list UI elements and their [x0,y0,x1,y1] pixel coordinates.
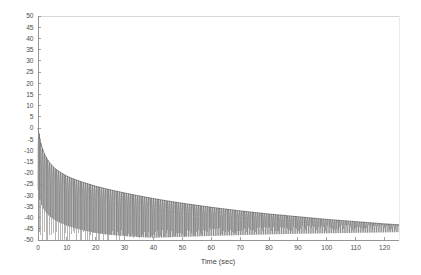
y-tick-label: 40 [26,35,34,42]
y-tick-label: -50 [24,236,34,243]
x-axis-title: Time (sec) [201,257,236,266]
x-tick-label: 50 [179,244,187,251]
y-tick-label: 50 [26,12,34,19]
data-trace [38,133,399,237]
axis-titles: Time (sec) [201,257,236,266]
y-tick-label: 5 [30,113,34,120]
y-tick-label: 15 [26,91,34,98]
x-tick-label: 60 [208,244,216,251]
x-tick-label: 110 [350,244,361,251]
y-tick-label: -45 [24,225,34,232]
x-tick-label: 20 [92,244,100,251]
x-tick-label: 70 [236,244,244,251]
y-tick-label: -5 [28,136,34,143]
y-tick-label: -40 [24,214,34,221]
x-tick-label: 10 [63,244,71,251]
x-tick-label: 80 [265,244,273,251]
x-tick-label: 40 [150,244,158,251]
y-tick-label: -30 [24,192,34,199]
x-tick-label: 90 [294,244,302,251]
x-tick-label: 0 [36,244,40,251]
y-tick-label: 35 [26,46,34,53]
y-tick-label: -10 [24,147,34,154]
y-tick-label: 45 [26,24,34,31]
x-tick-label: 100 [321,244,332,251]
y-tick-label: -15 [24,158,34,165]
x-tick-label: 30 [121,244,129,251]
chart-figure: 50454035302520151050-5-10-15-20-25-30-35… [0,0,421,275]
y-tick-label: 30 [26,57,34,64]
y-tick-label: -35 [24,203,34,210]
y-tick-label: 0 [30,124,34,131]
y-tick-label: -25 [24,180,34,187]
chart-plot-area: 50454035302520151050-5-10-15-20-25-30-35… [0,0,421,275]
y-tick-label: 25 [26,68,34,75]
x-tick-label: 120 [379,244,390,251]
data-trace-layer [38,128,399,240]
y-tick-label: 10 [26,102,34,109]
y-tick-label: 20 [26,80,34,87]
y-tick-label: -20 [24,169,34,176]
axis-frame [38,16,399,240]
